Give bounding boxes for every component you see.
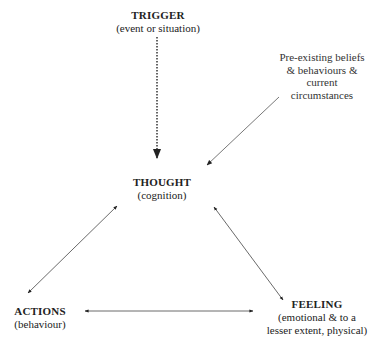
feeling-subtitle-line2: lesser extent, physical)	[267, 324, 368, 337]
thought-title: THOUGHT	[133, 176, 191, 189]
actions-title: ACTIONS	[14, 305, 66, 318]
trigger-title: TRIGGER	[116, 9, 200, 22]
influence-note: Pre-existing beliefs & behaviours & curr…	[279, 51, 364, 101]
trigger-node: TRIGGER (event or situation)	[116, 9, 200, 35]
thought-node: THOUGHT (cognition)	[133, 176, 191, 202]
thought-subtitle: (cognition)	[133, 189, 191, 202]
beliefs-to-thought-arrow	[207, 97, 279, 165]
trigger-subtitle: (event or situation)	[116, 22, 200, 35]
feeling-subtitle-line1: (emotional & to a	[267, 311, 368, 324]
feeling-title: FEELING	[267, 298, 368, 311]
actions-node: ACTIONS (behaviour)	[14, 305, 66, 331]
thought-feeling-arrow	[214, 207, 283, 300]
feeling-node: FEELING (emotional & to a lesser extent,…	[267, 298, 368, 337]
influence-note-line2: & behaviours &	[279, 64, 364, 77]
thought-actions-arrow	[28, 206, 117, 293]
influence-note-line4: circumstances	[279, 89, 364, 102]
actions-subtitle: (behaviour)	[14, 318, 66, 331]
influence-note-line1: Pre-existing beliefs	[279, 51, 364, 64]
influence-note-line3: current	[279, 76, 364, 89]
